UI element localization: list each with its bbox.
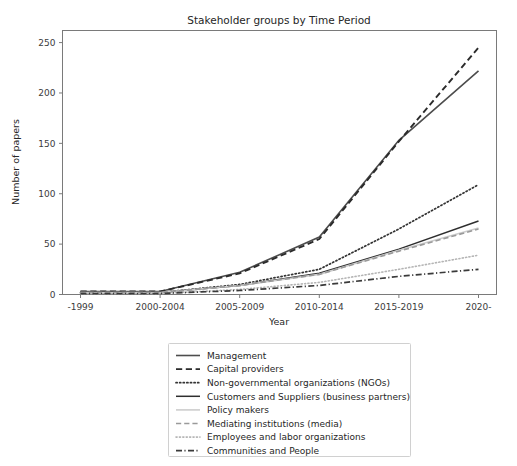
y-tick-label: 200 xyxy=(38,88,55,98)
y-tick-label: 100 xyxy=(38,189,55,199)
legend-label-6[interactable]: Employees and labor organizations xyxy=(207,432,366,442)
y-axis-label: Number of papers xyxy=(10,119,21,205)
legend-label-7[interactable]: Communities and People xyxy=(207,446,320,456)
legend-label-1[interactable]: Capital providers xyxy=(207,364,284,374)
legend-label-2[interactable]: Non-governmental organizations (NGOs) xyxy=(207,378,390,388)
chart-legend: ManagementCapital providersNon-governmen… xyxy=(169,344,411,457)
x-tick-label: 2020- xyxy=(465,302,491,312)
x-tick-label: 2015-2019 xyxy=(374,302,423,312)
chart-canvas: Stakeholder groups by Time Period 050100… xyxy=(0,0,517,466)
legend-label-5[interactable]: Mediating institutions (media) xyxy=(207,419,342,429)
legend-label-0[interactable]: Management xyxy=(207,351,267,361)
chart-title: Stakeholder groups by Time Period xyxy=(187,14,370,26)
x-tick-label: -1999 xyxy=(67,302,93,312)
y-tick-label: 0 xyxy=(50,290,56,300)
x-tick-label: 2005-2009 xyxy=(215,302,264,312)
legend-label-4[interactable]: Policy makers xyxy=(207,405,269,415)
chart-figure: Stakeholder groups by Time Period 050100… xyxy=(0,0,517,466)
x-tick-label: 2010-2014 xyxy=(295,302,344,312)
y-tick-label: 150 xyxy=(38,139,55,149)
x-axis-label: Year xyxy=(268,316,289,327)
legend-label-3[interactable]: Customers and Suppliers (business partne… xyxy=(207,392,410,402)
y-tick-label: 50 xyxy=(44,239,56,249)
y-tick-label: 250 xyxy=(38,38,55,48)
x-tick-label: 2000-2004 xyxy=(136,302,185,312)
